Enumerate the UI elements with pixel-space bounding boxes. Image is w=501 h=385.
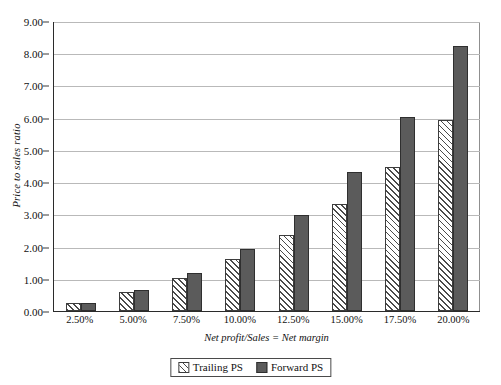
legend-item-forward[interactable]: Forward PS bbox=[256, 361, 323, 373]
x-tick-label: 2.50% bbox=[53, 314, 106, 332]
bar-trailing-2.50[interactable] bbox=[66, 303, 81, 311]
bar-group bbox=[214, 22, 267, 311]
bar-group bbox=[107, 22, 160, 311]
bar-trailing-15.00[interactable] bbox=[332, 204, 347, 311]
legend-label: Forward PS bbox=[271, 361, 323, 373]
bar-forward-20.00[interactable] bbox=[453, 46, 468, 311]
y-tick-mark bbox=[43, 22, 49, 23]
plot-area bbox=[53, 22, 480, 312]
legend-label: Trailing PS bbox=[193, 361, 243, 373]
x-tick-label: 7.50% bbox=[160, 314, 213, 332]
legend-item-trailing[interactable]: Trailing PS bbox=[178, 361, 243, 373]
x-tick-label: 5.00% bbox=[106, 314, 159, 332]
y-tick-mark bbox=[43, 118, 49, 119]
y-tick-label: 2.00 bbox=[0, 242, 43, 254]
bar-forward-5.00[interactable] bbox=[134, 290, 149, 311]
x-tick-label: 12.50% bbox=[267, 314, 320, 332]
price-to-sales-bar-chart: Price to sales ratio 9.008.007.006.005.0… bbox=[0, 0, 501, 385]
bar-forward-12.50[interactable] bbox=[294, 215, 309, 311]
legend-swatch-forward-icon bbox=[256, 362, 267, 373]
bar-trailing-12.50[interactable] bbox=[279, 235, 294, 311]
y-tick-label: 6.00 bbox=[0, 113, 43, 125]
y-tick-label: 4.00 bbox=[0, 177, 43, 189]
y-tick-label: 5.00 bbox=[0, 145, 43, 157]
y-tick-mark bbox=[43, 54, 49, 55]
y-tick-mark bbox=[43, 279, 49, 280]
y-tick-label: 3.00 bbox=[0, 209, 43, 221]
bar-group bbox=[267, 22, 320, 311]
bar-group bbox=[54, 22, 107, 311]
x-tick-label: 15.00% bbox=[320, 314, 373, 332]
y-tick-mark bbox=[43, 86, 49, 87]
bar-forward-17.50[interactable] bbox=[400, 117, 415, 311]
y-tick-label: 7.00 bbox=[0, 80, 43, 92]
bars-layer bbox=[54, 22, 480, 311]
y-tick-mark bbox=[43, 247, 49, 248]
bar-trailing-7.50[interactable] bbox=[172, 278, 187, 311]
bar-group bbox=[320, 22, 373, 311]
x-axis-title: Net profit/Sales = Net margin bbox=[53, 332, 480, 343]
bar-forward-10.00[interactable] bbox=[240, 249, 255, 311]
bar-trailing-5.00[interactable] bbox=[119, 292, 134, 311]
y-tick-mark bbox=[43, 215, 49, 216]
bar-forward-2.50[interactable] bbox=[81, 303, 96, 311]
y-tick-mark bbox=[43, 312, 49, 313]
y-tick-mark bbox=[43, 183, 49, 184]
x-axis-tick-labels: 2.50%5.00%7.50%10.00%12.50%15.00%17.50%2… bbox=[53, 314, 480, 332]
x-tick-label: 20.00% bbox=[427, 314, 480, 332]
bar-trailing-20.00[interactable] bbox=[438, 120, 453, 311]
chart-legend: Trailing PSForward PS bbox=[170, 358, 331, 377]
y-tick-label: 1.00 bbox=[0, 274, 43, 286]
legend-swatch-trailing-icon bbox=[178, 362, 189, 373]
y-tick-label: 0.00 bbox=[0, 306, 43, 318]
y-tick-label: 9.00 bbox=[0, 16, 43, 28]
bar-forward-7.50[interactable] bbox=[187, 273, 202, 311]
y-axis-tick-labels: 9.008.007.006.005.004.003.002.001.000.00 bbox=[0, 0, 52, 385]
y-tick-mark bbox=[43, 150, 49, 151]
bar-forward-15.00[interactable] bbox=[347, 172, 362, 311]
y-tick-label: 8.00 bbox=[0, 48, 43, 60]
bar-group bbox=[374, 22, 427, 311]
x-tick-label: 10.00% bbox=[213, 314, 266, 332]
bar-trailing-17.50[interactable] bbox=[385, 167, 400, 311]
bar-group bbox=[427, 22, 480, 311]
bar-group bbox=[161, 22, 214, 311]
bar-trailing-10.00[interactable] bbox=[225, 259, 240, 311]
x-tick-label: 17.50% bbox=[373, 314, 426, 332]
